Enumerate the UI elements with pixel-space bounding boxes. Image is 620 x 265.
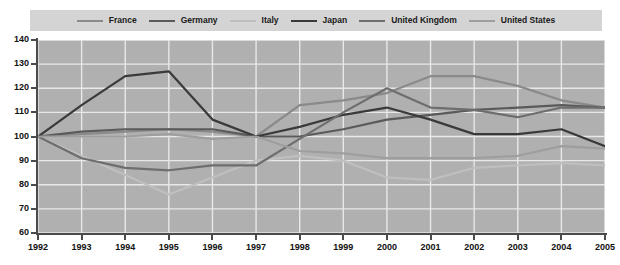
x-tick-mark — [430, 235, 432, 240]
plot-area — [38, 40, 605, 233]
x-tick-mark — [517, 235, 519, 240]
x-tick-label: 1996 — [192, 243, 232, 252]
x-tick-mark — [299, 235, 301, 240]
y-tick-mark — [31, 39, 36, 41]
x-tick-label: 1993 — [62, 243, 102, 252]
x-tick-label: 1999 — [323, 243, 363, 252]
x-tick-mark — [342, 235, 344, 240]
x-tick-label: 2000 — [367, 243, 407, 252]
x-tick-mark — [473, 235, 475, 240]
y-tick-label: 100 — [3, 132, 29, 141]
series-line-united-states — [38, 134, 605, 158]
x-tick-label: 1994 — [105, 243, 145, 252]
legend-item-label: Italy — [262, 16, 279, 25]
y-tick-label: 140 — [3, 35, 29, 44]
y-tick-mark — [31, 208, 36, 210]
x-tick-label: 1995 — [149, 243, 189, 252]
x-tick-mark — [211, 235, 213, 240]
y-tick-mark — [31, 184, 36, 186]
series-line-japan — [38, 71, 605, 146]
y-tick-mark — [31, 63, 36, 65]
x-tick-label: 2001 — [411, 243, 451, 252]
x-tick-mark — [255, 235, 257, 240]
x-tick-mark — [386, 235, 388, 240]
x-tick-mark — [168, 235, 170, 240]
legend-item-label: United States — [501, 16, 555, 25]
series-line-italy — [38, 137, 605, 195]
legend-swatch-icon — [291, 20, 317, 22]
y-tick-label: 130 — [3, 59, 29, 68]
x-tick-mark — [81, 235, 83, 240]
x-tick-label: 1992 — [18, 243, 58, 252]
y-tick-label: 80 — [3, 180, 29, 189]
y-tick-label: 60 — [3, 228, 29, 237]
x-tick-label: 1997 — [236, 243, 276, 252]
legend-item-label: France — [109, 16, 137, 25]
legend-item-label: Japan — [323, 16, 348, 25]
legend-swatch-icon — [359, 20, 385, 22]
x-tick-mark — [560, 235, 562, 240]
legend-swatch-icon — [469, 20, 495, 22]
x-tick-label: 1998 — [280, 243, 320, 252]
y-tick-mark — [31, 232, 36, 234]
y-tick-label: 110 — [3, 107, 29, 116]
x-tick-label: 2002 — [454, 243, 494, 252]
x-tick-label: 2004 — [541, 243, 581, 252]
chart-legend: FranceGermanyItalyJapanUnited KingdomUni… — [30, 10, 602, 31]
legend-item-france[interactable]: France — [71, 16, 143, 25]
y-tick-label: 70 — [3, 204, 29, 213]
legend-item-united-kingdom[interactable]: United Kingdom — [353, 16, 463, 25]
x-tick-label: 2003 — [498, 243, 538, 252]
x-axis — [36, 233, 607, 235]
legend-item-united-states[interactable]: United States — [463, 16, 561, 25]
legend-item-japan[interactable]: Japan — [285, 16, 354, 25]
plot-lines — [38, 40, 605, 233]
y-tick-label: 120 — [3, 83, 29, 92]
y-tick-mark — [31, 111, 36, 113]
legend-item-italy[interactable]: Italy — [224, 16, 285, 25]
legend-swatch-icon — [230, 20, 256, 22]
legend-swatch-icon — [77, 20, 103, 22]
x-tick-mark — [604, 235, 606, 240]
y-tick-mark — [31, 160, 36, 162]
x-tick-label: 2005 — [585, 243, 620, 252]
legend-item-label: United Kingdom — [391, 16, 457, 25]
legend-item-germany[interactable]: Germany — [143, 16, 224, 25]
y-axis — [36, 38, 38, 235]
x-tick-mark — [37, 235, 39, 240]
legend-item-label: Germany — [181, 16, 218, 25]
y-tick-label: 90 — [3, 156, 29, 165]
chart-title — [0, 0, 611, 1]
y-tick-mark — [31, 136, 36, 138]
x-tick-mark — [124, 235, 126, 240]
y-tick-mark — [31, 87, 36, 89]
legend-swatch-icon — [149, 20, 175, 22]
